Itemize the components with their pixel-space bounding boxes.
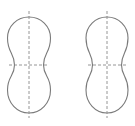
peanut-shape-right: [86, 11, 128, 118]
diagram-canvas: [0, 0, 135, 126]
peanut-shape-left: [8, 11, 51, 118]
